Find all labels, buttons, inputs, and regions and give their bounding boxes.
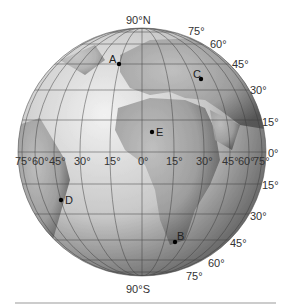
svg-text:30°: 30° bbox=[74, 155, 91, 167]
lat-label-15s: 15° bbox=[262, 179, 279, 191]
svg-text:15°: 15° bbox=[104, 155, 121, 167]
svg-text:A: A bbox=[109, 53, 117, 65]
south-pole-label: 90°S bbox=[126, 283, 150, 295]
lat-label-60s: 60° bbox=[208, 257, 225, 269]
longitude-labels: 75° 60° 45° 30° 15° 0° 15° 30° 45° 60° 7… bbox=[15, 155, 270, 167]
svg-text:75°: 75° bbox=[15, 155, 32, 167]
svg-text:45°: 45° bbox=[49, 155, 66, 167]
svg-text:60°: 60° bbox=[32, 155, 49, 167]
lat-label-30s: 30° bbox=[250, 210, 267, 222]
lat-label-60n: 60° bbox=[210, 38, 227, 50]
svg-text:45°: 45° bbox=[222, 155, 239, 167]
svg-text:15°: 15° bbox=[166, 155, 183, 167]
svg-text:D: D bbox=[65, 194, 73, 206]
svg-text:75°: 75° bbox=[253, 155, 270, 167]
north-pole-label: 90°N bbox=[126, 14, 151, 26]
lat-label-45n: 45° bbox=[232, 58, 249, 70]
lat-label-30n: 30° bbox=[250, 84, 267, 96]
svg-text:B: B bbox=[177, 230, 184, 242]
lat-label-75n: 75° bbox=[188, 25, 205, 37]
lat-label-15n: 15° bbox=[262, 116, 279, 128]
lat-label-75s: 75° bbox=[186, 270, 203, 282]
svg-text:0°: 0° bbox=[138, 155, 149, 167]
svg-text:C: C bbox=[193, 68, 201, 80]
svg-text:E: E bbox=[156, 126, 163, 138]
svg-text:30°: 30° bbox=[196, 155, 213, 167]
lat-label-45s: 45° bbox=[230, 237, 247, 249]
globe-figure: 90°N 90°S 75° 60° 45° 30° 15° 0° 15° 30°… bbox=[0, 0, 289, 307]
